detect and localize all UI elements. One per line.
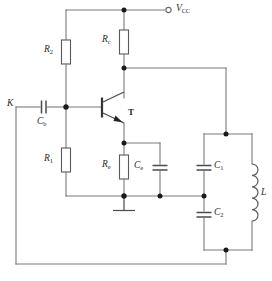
transistor-t	[102, 92, 124, 143]
vcc-terminal-circle[interactable]	[166, 7, 171, 12]
circuit-diagram: VCC K Cb R2 R1 Rc Re Ce C1 C2 L T	[0, 0, 272, 281]
transistor-collector-lead	[102, 92, 124, 103]
node-ground	[121, 193, 126, 198]
label-cb: Cb	[37, 117, 47, 127]
junction-dots	[63, 8, 228, 253]
node-ce-bottom	[158, 194, 163, 199]
resistor-re-body	[120, 155, 129, 179]
collector-branch	[120, 10, 227, 134]
node-emitter	[122, 141, 127, 146]
label-r2: R2	[44, 45, 53, 55]
node-tank-top	[224, 132, 229, 137]
label-r1: R1	[44, 154, 53, 164]
resistor-rc-body	[120, 30, 129, 54]
resistor-r2-body	[62, 40, 71, 64]
node-tank-bottom	[224, 248, 229, 253]
emitter-network	[113, 143, 204, 211]
label-vcc: VCC	[176, 4, 190, 14]
inductor-coil	[252, 164, 258, 221]
label-c2: C2	[214, 208, 224, 218]
label-l: L	[261, 188, 266, 198]
node-supply-rail	[122, 8, 127, 13]
supply-rail	[66, 7, 171, 12]
resistor-r1-body	[62, 148, 71, 172]
label-rc: Rc	[102, 35, 111, 45]
node-tank-mid	[202, 194, 207, 199]
input-coupling-branch	[16, 101, 226, 265]
bias-divider-branch	[62, 10, 125, 196]
tank-circuit	[197, 134, 259, 264]
label-k: K	[7, 99, 13, 109]
schematic-canvas	[0, 0, 272, 281]
label-re: Re	[102, 160, 111, 170]
label-t: T	[128, 108, 134, 117]
node-base	[63, 104, 68, 109]
label-c1: C1	[214, 161, 224, 171]
label-ce: Ce	[134, 161, 143, 171]
transistor-emitter-arrow	[114, 116, 123, 123]
node-collector-tap	[122, 66, 127, 71]
